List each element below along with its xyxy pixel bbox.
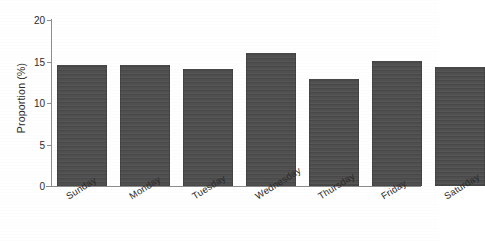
y-axis-tick-mark [47, 62, 52, 63]
y-axis-tick-mark [47, 103, 52, 104]
y-axis-tick-label: 20 [34, 15, 45, 26]
y-axis-tick-label: 5 [39, 139, 45, 150]
y-axis-tick-label: 15 [34, 56, 45, 67]
y-axis-tick-mark [47, 145, 52, 146]
bar [372, 61, 422, 186]
y-axis-tick-label: 10 [34, 98, 45, 109]
y-axis-title: Proportion (%) [15, 33, 27, 163]
y-axis-tick-mark [47, 186, 52, 187]
bar [246, 53, 296, 186]
x-axis-spine [46, 186, 421, 187]
bar [57, 65, 107, 186]
bar [309, 79, 359, 186]
bar [120, 65, 170, 186]
bar [435, 67, 485, 186]
y-axis-tick-mark [47, 20, 52, 21]
bar [183, 69, 233, 186]
plot-area: 05101520 [52, 20, 420, 186]
y-axis-tick-label: 0 [39, 181, 45, 192]
